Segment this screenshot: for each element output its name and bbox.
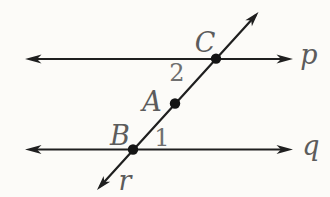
point-C-label: C	[195, 27, 216, 58]
point-B-label: B	[109, 120, 130, 151]
point-A-label: A	[139, 86, 162, 117]
parallel-lines-transversal-diagram: C A B 2 1 p q r	[0, 0, 330, 197]
line-q-label: q	[302, 130, 319, 161]
point-A-dot	[170, 98, 180, 108]
line-r-label: r	[119, 165, 134, 196]
angle-1-label: 1	[154, 124, 169, 152]
angle-2-label: 2	[169, 59, 184, 87]
line-p-label: p	[300, 39, 317, 70]
geometry-figure: C A B 2 1 p q r	[0, 0, 330, 197]
diagram-background	[0, 0, 330, 197]
